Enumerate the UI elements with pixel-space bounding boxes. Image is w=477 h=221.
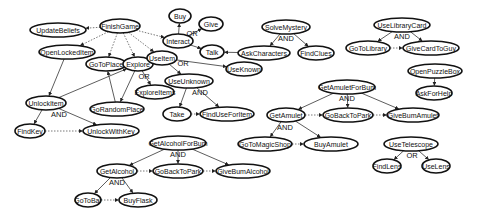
- node-take: Take: [163, 107, 191, 121]
- edge-use-telescope-to-use-lens: [419, 151, 429, 160]
- node-give: Give: [199, 17, 223, 31]
- node-label: BuyAmulet: [314, 141, 348, 149]
- edge-use-library-card-to-give-card-to-guy: [410, 32, 422, 41]
- node-label: ExploreItems: [135, 89, 176, 97]
- node-find-key: FindKey: [15, 124, 45, 138]
- edge-get-amulet-to-buy-amulet: [295, 121, 320, 137]
- node-label: Interact: [166, 38, 189, 45]
- node-label: UnlockWithKey: [87, 128, 135, 136]
- node-label: Explore: [126, 61, 150, 69]
- node-label: UpdateBeliefs: [36, 27, 80, 35]
- node-label: UseLens: [422, 163, 450, 170]
- node-buy-amulet: BuyAmulet: [304, 137, 358, 151]
- node-use-library-card: UseLibraryCard: [374, 18, 430, 32]
- node-open-locked-item: OpenLockedItem: [39, 45, 95, 59]
- operator-label-and: AND: [192, 88, 208, 97]
- node-label: GoToPlace: [89, 61, 123, 68]
- node-label: GoToLibrary: [349, 45, 388, 53]
- operator-label-and: AND: [278, 34, 294, 43]
- edge-use-telescope-to-find-lens: [394, 151, 404, 160]
- node-go-random-place: GoRandomPlace: [90, 102, 144, 116]
- node-label: GiveBumAlcohol: [217, 168, 269, 175]
- edge-unlock-item-to-find-key: [34, 110, 42, 124]
- operator-label-and: AND: [394, 32, 410, 41]
- node-give-bum-alcohol: GiveBumAlcohol: [216, 164, 270, 178]
- edge-finish-game-to-use-item: [128, 32, 153, 51]
- node-label: UseItem: [149, 55, 175, 62]
- edge-explore-to-go-random-place: [120, 71, 134, 102]
- node-open-puzzle-box: OpenPuzzleBox: [408, 64, 462, 78]
- edge-get-alcohol-to-go-to-bar: [95, 178, 111, 194]
- operator-label-or: OR: [138, 72, 150, 81]
- node-label: FindUseForItem: [202, 111, 252, 118]
- edge-interact-to-buy: [179, 23, 180, 34]
- node-use-telescope: UseTelescope: [384, 137, 438, 151]
- edge-get-alcohol-for-bum-to-get-alcohol: [130, 149, 165, 165]
- operator-label-and: AND: [109, 178, 125, 187]
- node-label: Take: [170, 111, 185, 118]
- edge-finish-game-to-update-beliefs: [86, 27, 101, 28]
- edge-use-unknown-to-take: [180, 88, 187, 107]
- node-finish-game: FinishGame: [100, 19, 140, 33]
- node-label: GetAlcohol: [100, 168, 135, 175]
- node-find-lens: FindLens: [373, 159, 402, 173]
- node-use-lens: UseLens: [422, 159, 450, 173]
- node-label: FinishGame: [101, 23, 139, 30]
- edge-finish-game-to-open-locked-item: [80, 32, 108, 46]
- node-label: AskCharacters: [241, 50, 287, 57]
- node-unlock-item: UnlockItem: [26, 96, 66, 110]
- node-use-item: UseItem: [147, 51, 177, 65]
- node-label: GetAlcoholForBum: [148, 140, 207, 147]
- node-label: GoToBar: [74, 197, 102, 204]
- node-label: GiveBumAmulet: [388, 112, 439, 119]
- node-give-card-to-guy: GiveCardToGuy: [403, 41, 459, 55]
- node-label: GoRandomPlace: [90, 106, 143, 113]
- node-label: OpenPuzzleBox: [410, 68, 461, 76]
- node-label: Give: [204, 21, 219, 28]
- edge-get-amulet-for-bum-to-get-amulet: [298, 93, 333, 109]
- node-use-unknown: UseUnknown: [165, 74, 213, 88]
- node-find-clues: FindClues: [298, 46, 334, 60]
- node-update-beliefs: UpdateBeliefs: [30, 23, 86, 37]
- node-label: FindClues: [300, 50, 332, 57]
- node-get-amulet-for-bum: GetAmuletForBum: [318, 80, 376, 94]
- edge-interact-to-talk: [190, 45, 201, 48]
- node-label: UseTelescope: [389, 141, 433, 149]
- edge-get-alcohol-for-bum-to-give-bum-alcohol: [192, 149, 229, 165]
- node-label: BuyFlask: [124, 197, 153, 205]
- node-go-to-magic-shop: GoToMagicShop: [238, 137, 292, 151]
- operator-label-or: OR: [177, 59, 189, 68]
- node-ask-characters: AskCharacters: [238, 46, 290, 60]
- node-buy: Buy: [169, 9, 191, 23]
- node-label: GoToMagicShop: [239, 141, 291, 149]
- node-ask-for-help: AskForHelp: [416, 86, 453, 100]
- node-go-back-to-park2: GoBackToPark: [153, 164, 203, 178]
- node-use-known: UseKnown: [226, 62, 262, 76]
- node-label: GoBackToPark: [155, 168, 202, 175]
- node-label: OpenLockedItem: [40, 49, 93, 57]
- node-go-back-to-park: GoBackToPark: [323, 108, 373, 122]
- node-talk: Talk: [200, 45, 224, 59]
- node-label: SolveMystery: [265, 24, 308, 32]
- edge-use-library-card-to-go-to-library: [378, 32, 393, 42]
- node-label: GetAmulet: [269, 112, 302, 119]
- node-go-to-place: GoToPlace: [86, 57, 126, 71]
- node-label: UnlockItem: [28, 100, 63, 107]
- operator-label-and: AND: [170, 150, 186, 159]
- node-get-amulet: GetAmulet: [267, 108, 305, 122]
- edge-solve-mystery-to-find-clues: [294, 34, 309, 47]
- node-solve-mystery: SolveMystery: [262, 20, 310, 34]
- edge-finish-game-to-explore: [123, 33, 134, 57]
- node-find-use-for-item: FindUseForItem: [200, 107, 254, 121]
- node-go-to-library: GoToLibrary: [346, 41, 390, 55]
- node-get-alcohol: GetAlcohol: [97, 164, 137, 178]
- node-label: FindLens: [373, 163, 402, 170]
- edge-finish-game-to-go-to-place: [109, 33, 118, 57]
- operator-label-and: AND: [339, 94, 355, 103]
- node-go-to-bar: GoToBar: [74, 193, 102, 207]
- node-label: Talk: [206, 49, 219, 56]
- edge-get-amulet-for-bum-to-give-bum-amulet: [361, 93, 398, 109]
- node-label: GetAmuletForBum: [318, 84, 376, 91]
- node-label: GoBackToPark: [325, 112, 372, 119]
- node-label: Buy: [174, 13, 187, 21]
